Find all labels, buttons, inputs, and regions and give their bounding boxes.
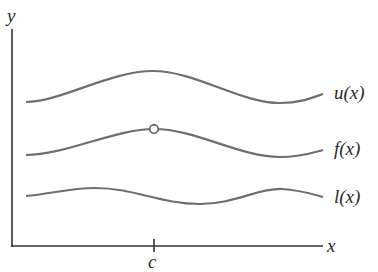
axes <box>11 29 323 252</box>
curve-f <box>26 129 323 157</box>
open-circle-marker <box>150 125 158 133</box>
curve-u <box>26 71 323 103</box>
y-axis-label: y <box>5 5 16 26</box>
curve-label-l: l(x) <box>334 186 360 208</box>
curve-l <box>26 188 323 204</box>
x-axis-label: x <box>326 235 336 256</box>
tick-label-c: c <box>148 251 157 272</box>
curve-label-u: u(x) <box>334 82 365 104</box>
curve-label-f: f(x) <box>334 138 360 160</box>
squeeze-theorem-diagram: y x c u(x) f(x) l(x) <box>0 0 378 272</box>
